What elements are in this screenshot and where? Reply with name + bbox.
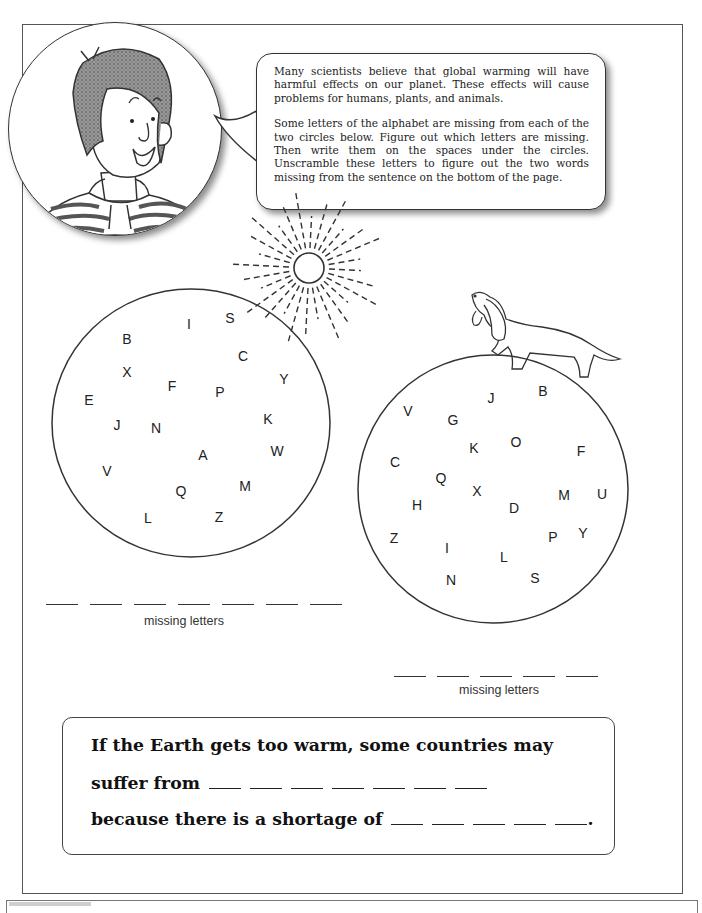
answer-blank[interactable] [373, 787, 405, 789]
left-circle-letter: N [151, 420, 161, 436]
left-circle-letter: S [225, 310, 234, 326]
letter-blank[interactable] [46, 603, 78, 605]
letter-blank[interactable] [523, 675, 555, 677]
instructions-speech-bubble: Many scientists believe that global warm… [256, 53, 606, 210]
letter-blank[interactable] [437, 675, 469, 677]
footer-tab [9, 902, 91, 906]
avatar [8, 22, 222, 236]
sentence-line-3: because there is a shortage of . [91, 809, 593, 829]
left-circle-letter: X [122, 364, 131, 380]
left-circle-letter: E [84, 392, 93, 408]
left-circle-letter: P [215, 384, 224, 400]
right-circle-letter: S [530, 570, 539, 586]
right-circle-letter: J [488, 390, 495, 406]
right-circle-letter: F [577, 443, 586, 459]
letter-blank[interactable] [310, 603, 342, 605]
left-circle-letter: M [239, 478, 251, 494]
speech-bubble-tail-icon [213, 108, 261, 168]
letter-blank[interactable] [480, 675, 512, 677]
right-circle-letter: U [597, 486, 607, 502]
left-letter-circle [50, 287, 334, 559]
right-circle-letter: P [548, 529, 557, 545]
answer-blank[interactable] [514, 823, 546, 825]
right-circle-letter: C [390, 454, 400, 470]
right-circle-letter: O [511, 434, 522, 450]
drought-answer-blanks[interactable] [209, 787, 487, 793]
left-circle-letter: Y [279, 371, 288, 387]
left-circle-letter: Z [215, 509, 224, 525]
left-missing-letters-caption: missing letters [144, 614, 224, 628]
instructions-paragraph: Some letters of the alphabet are missing… [274, 117, 589, 184]
answer-blank[interactable] [455, 787, 487, 789]
intro-paragraph: Many scientists believe that global warm… [274, 65, 589, 105]
right-circle-letter: I [445, 540, 449, 556]
answer-blank[interactable] [209, 787, 241, 789]
letter-blank[interactable] [178, 603, 210, 605]
right-circle-letter: M [558, 487, 570, 503]
right-circle-letter: D [509, 500, 519, 516]
left-missing-letter-blanks[interactable] [46, 603, 342, 605]
letter-blank[interactable] [134, 603, 166, 605]
answer-blank[interactable] [250, 787, 282, 789]
left-circle-letter: L [144, 510, 152, 526]
answer-blank[interactable] [555, 823, 587, 825]
right-circle-letter: B [538, 383, 547, 399]
left-circle-letter: K [263, 411, 272, 427]
left-circle-letter: Q [176, 483, 187, 499]
letter-blank[interactable] [566, 675, 598, 677]
left-circle-letter: V [102, 463, 111, 479]
right-missing-letter-blanks[interactable] [394, 675, 598, 677]
sentence-line-1: If the Earth gets too warm, some countri… [91, 735, 553, 755]
right-circle-letter: V [403, 403, 412, 419]
right-circle-letter: N [446, 572, 456, 588]
right-circle-letter: L [500, 549, 508, 565]
right-missing-letters-caption: missing letters [459, 683, 539, 697]
answer-blank[interactable] [391, 823, 423, 825]
right-circle-letter: Z [390, 530, 399, 546]
answer-sentence-box: If the Earth gets too warm, some countri… [62, 717, 615, 855]
footer-bar [6, 900, 698, 913]
left-circle-letter: W [270, 443, 283, 459]
left-circle-letter: A [198, 447, 207, 463]
left-circle-letter: C [238, 348, 248, 364]
right-circle-letter: Q [436, 470, 447, 486]
right-circle-letter: K [469, 440, 478, 456]
sentence-line-3-suffix: . [587, 809, 593, 829]
sentence-line-2-prefix: suffer from [91, 773, 200, 793]
answer-blank[interactable] [414, 787, 446, 789]
left-circle-letter: I [187, 316, 191, 332]
left-circle-letter: J [114, 417, 121, 433]
right-circle-letter: H [412, 497, 422, 513]
left-circle-letter: B [122, 331, 131, 347]
letter-blank[interactable] [266, 603, 298, 605]
letter-blank[interactable] [394, 675, 426, 677]
sentence-line-3-prefix: because there is a shortage of [91, 809, 382, 829]
left-circle-letter: F [168, 378, 177, 394]
boy-illustration-icon [9, 23, 221, 235]
answer-blank[interactable] [432, 823, 464, 825]
right-circle-letter: X [472, 483, 481, 499]
sentence-line-2: suffer from [91, 773, 487, 793]
letter-blank[interactable] [90, 603, 122, 605]
answer-blank[interactable] [332, 787, 364, 789]
right-circle-letter: G [448, 412, 459, 428]
water-answer-blanks[interactable] [391, 823, 587, 829]
right-circle-letter: Y [578, 525, 587, 541]
answer-blank[interactable] [473, 823, 505, 825]
sentence-line-1-text: If the Earth gets too warm, some countri… [91, 735, 553, 755]
letter-blank[interactable] [222, 603, 254, 605]
answer-blank[interactable] [291, 787, 323, 789]
